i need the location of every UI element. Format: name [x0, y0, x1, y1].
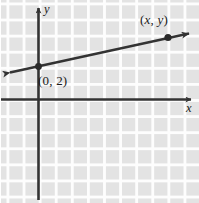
point-marker-intercept: [35, 63, 42, 70]
label-general-point-close: ): [163, 12, 168, 27]
y-axis-label: y: [44, 3, 50, 16]
point-marker-general: [164, 34, 171, 41]
graph-figure: (0, 2) (x, y) x y: [0, 0, 199, 203]
x-axis-label: x: [186, 102, 192, 115]
label-general-point: (x, y): [140, 13, 168, 26]
graph-vector-layer: [0, 0, 199, 203]
label-y-intercept: (0, 2): [38, 74, 67, 87]
